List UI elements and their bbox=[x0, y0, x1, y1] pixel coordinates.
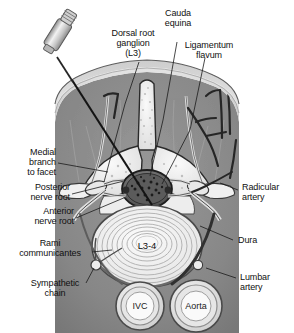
label-cauda-equina: Cauda equina bbox=[152, 8, 204, 28]
spinous-process bbox=[138, 80, 156, 150]
sympathetic-chain-ganglion bbox=[91, 260, 101, 270]
label-sympathetic-chain: Sympathetic chain bbox=[22, 278, 88, 298]
label-dorsal-root-ganglion: Dorsal root ganglion (L3) bbox=[98, 28, 168, 58]
label-aorta: Aorta bbox=[178, 301, 214, 311]
label-anterior-nerve-root: Anterior nerve root bbox=[2, 206, 74, 226]
needle-hub-shaft bbox=[57, 57, 73, 82]
label-dura: Dura bbox=[238, 235, 278, 245]
dural-sac-group bbox=[122, 170, 172, 208]
label-radicular-artery: Radicular artery bbox=[242, 182, 294, 202]
label-disc-level: L3-4 bbox=[127, 241, 167, 251]
right-epidural-vessel bbox=[165, 187, 172, 194]
lumbar-cross-section-figure: Cauda equina Dorsal root ganglion (L3) L… bbox=[0, 0, 294, 333]
label-lumbar-artery: Lumbar artery bbox=[240, 272, 290, 292]
left-epidural-vessel bbox=[123, 187, 130, 194]
label-posterior-nerve-root: Posterior nerve root bbox=[0, 182, 70, 202]
syringe-barrel-group bbox=[40, 8, 78, 56]
label-medial-branch-to-facet: Medial branch to facet bbox=[4, 147, 56, 177]
label-rami-communicantes: Rami communicantes bbox=[8, 238, 92, 258]
label-ligamentum-flavum: Ligamentum flavum bbox=[176, 40, 242, 60]
label-ivc: IVC bbox=[125, 301, 155, 311]
right-sympathetic-ganglion bbox=[193, 260, 202, 269]
